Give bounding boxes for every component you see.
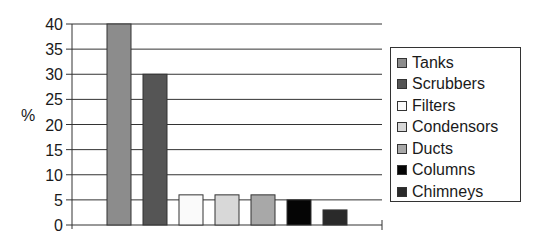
legend-item-tanks: Tanks <box>397 52 520 74</box>
bar-columns <box>287 200 311 225</box>
y-tick-label: 35 <box>45 41 63 58</box>
y-tick-label: 15 <box>45 142 63 159</box>
y-tick-label: 0 <box>54 217 63 234</box>
bar-chimneys <box>323 210 347 225</box>
legend-label: Scrubbers <box>412 75 485 93</box>
legend-item-columns: Columns <box>397 160 520 182</box>
bar-scrubbers <box>143 74 167 225</box>
bar-ducts <box>251 195 275 225</box>
legend-swatch <box>397 79 407 89</box>
legend-item-chimneys: Chimneys <box>397 181 520 203</box>
legend: TanksScrubbersFiltersCondensorsDuctsColu… <box>390 47 521 202</box>
legend-swatch <box>397 58 407 68</box>
legend-swatch <box>397 144 407 154</box>
y-tick-label: 5 <box>54 192 63 209</box>
legend-swatch <box>397 165 407 175</box>
bar-tanks <box>107 24 131 225</box>
y-tick-label: 25 <box>45 91 63 108</box>
legend-item-ducts: Ducts <box>397 138 520 160</box>
legend-label: Ducts <box>412 140 453 158</box>
y-tick-label: 30 <box>45 66 63 83</box>
legend-label: Filters <box>412 97 456 115</box>
legend-swatch <box>397 101 407 111</box>
y-tick-label: 10 <box>45 167 63 184</box>
legend-swatch <box>397 122 407 132</box>
y-tick-label: 20 <box>45 117 63 134</box>
bar-condensors <box>215 195 239 225</box>
legend-label: Tanks <box>412 54 454 72</box>
legend-item-condensors: Condensors <box>397 117 520 139</box>
legend-label: Chimneys <box>412 183 483 201</box>
legend-label: Columns <box>412 161 475 179</box>
y-axis-label: % <box>21 107 35 124</box>
y-tick-label: 40 <box>45 16 63 33</box>
bar-filters <box>179 195 203 225</box>
legend-label: Condensors <box>412 118 498 136</box>
legend-item-scrubbers: Scrubbers <box>397 74 520 96</box>
legend-swatch <box>397 187 407 197</box>
legend-item-filters: Filters <box>397 95 520 117</box>
